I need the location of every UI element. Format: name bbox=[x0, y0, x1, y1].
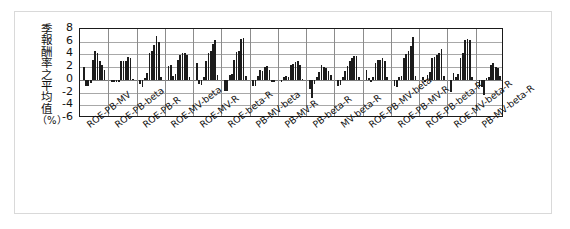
bar bbox=[412, 37, 414, 80]
bar bbox=[90, 80, 92, 83]
bar bbox=[358, 77, 360, 80]
bar bbox=[186, 55, 188, 80]
group-separator-gridline bbox=[193, 29, 194, 116]
group-separator-gridline bbox=[278, 29, 279, 116]
bar bbox=[269, 70, 271, 80]
y-axis-ticks: 86420-2-4-6 bbox=[57, 25, 73, 117]
horizontal-gridline bbox=[80, 42, 502, 43]
bar bbox=[396, 80, 398, 87]
bar bbox=[450, 80, 452, 92]
bar bbox=[330, 75, 332, 79]
y-tick-label: 0 bbox=[66, 74, 73, 84]
group-separator-gridline bbox=[165, 29, 166, 116]
bar bbox=[356, 56, 358, 80]
bar bbox=[469, 40, 471, 80]
group-separator-gridline bbox=[108, 29, 109, 116]
group-separator-gridline bbox=[250, 29, 251, 116]
bar bbox=[281, 80, 283, 82]
bar bbox=[158, 42, 160, 80]
bar bbox=[83, 67, 85, 80]
bar bbox=[273, 80, 275, 82]
horizontal-gridline bbox=[80, 93, 502, 94]
figure-panel: 季報酬率之平均值（%） 86420-2-4-6 ROE-PB-MVROE-PB-… bbox=[14, 11, 552, 214]
bar bbox=[189, 77, 191, 80]
bar bbox=[160, 77, 162, 80]
bar bbox=[255, 80, 257, 86]
bar bbox=[471, 77, 473, 80]
group-separator-gridline bbox=[391, 29, 392, 116]
bar bbox=[302, 79, 304, 80]
plot-area bbox=[79, 28, 503, 117]
horizontal-gridline bbox=[80, 105, 502, 106]
bar bbox=[340, 80, 342, 85]
bar bbox=[386, 77, 388, 80]
bar bbox=[201, 80, 203, 85]
bar bbox=[245, 76, 247, 80]
bar bbox=[443, 76, 445, 80]
group-separator-gridline bbox=[419, 29, 420, 116]
y-tick-label: 8 bbox=[66, 23, 73, 33]
bar bbox=[132, 79, 134, 80]
group-separator-gridline bbox=[447, 29, 448, 116]
bar bbox=[299, 65, 301, 80]
group-separator-gridline bbox=[221, 29, 222, 116]
bar bbox=[243, 38, 245, 80]
bar bbox=[483, 80, 485, 95]
bar bbox=[226, 80, 228, 91]
bar bbox=[214, 40, 216, 79]
bar bbox=[104, 70, 106, 80]
bar bbox=[196, 63, 198, 80]
y-axis-label-char: 值 bbox=[37, 104, 55, 115]
group-separator-gridline bbox=[363, 29, 364, 116]
bar bbox=[314, 80, 316, 84]
bar bbox=[499, 76, 501, 80]
y-tick-label: 6 bbox=[66, 36, 73, 46]
bar bbox=[415, 76, 417, 80]
bar bbox=[118, 80, 120, 82]
bar bbox=[370, 80, 372, 82]
y-tick-label: -6 bbox=[62, 112, 73, 122]
bar bbox=[217, 75, 219, 79]
group-separator-gridline bbox=[476, 29, 477, 116]
y-axis-label: 季報酬率之平均值（%） bbox=[37, 24, 55, 127]
y-axis-label-char: （%） bbox=[37, 115, 55, 127]
group-separator-gridline bbox=[137, 29, 138, 116]
y-tick-label: 4 bbox=[66, 48, 73, 58]
y-tick-label: 2 bbox=[66, 61, 73, 71]
bar bbox=[142, 80, 144, 87]
group-separator-gridline bbox=[334, 29, 335, 116]
bar bbox=[130, 58, 132, 80]
group-separator-gridline bbox=[306, 29, 307, 116]
y-tick-label: -2 bbox=[62, 87, 73, 97]
bar bbox=[424, 80, 426, 83]
y-tick-label: -4 bbox=[62, 99, 73, 109]
